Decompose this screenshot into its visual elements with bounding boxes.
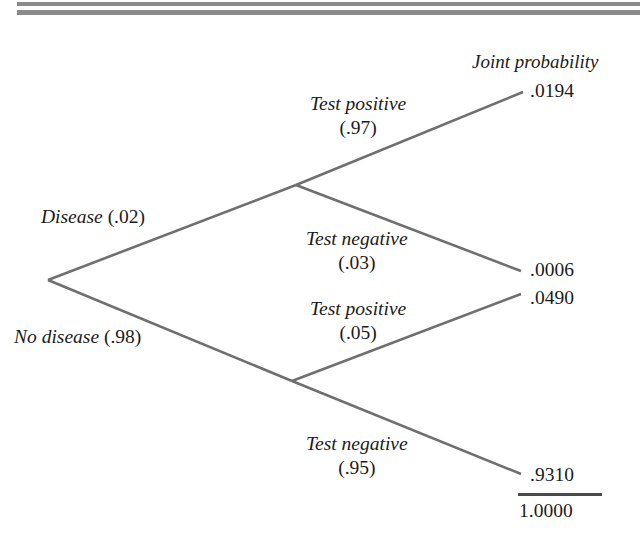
joint-probability-value-2: .0006 — [530, 258, 574, 282]
branch-label-test-positive-given-disease-text: Test positive — [310, 92, 406, 116]
branch-label-test-positive-given-no-disease-text: Test positive — [310, 297, 406, 321]
sum-rule — [518, 493, 602, 496]
branch-label-disease-text: Disease — [41, 206, 103, 227]
branch-label-test-negative-given-no-disease-text: Test negative — [306, 432, 408, 456]
branch-label-test-negative-given-disease-probability: (.03) — [306, 251, 408, 275]
branch-label-test-negative-given-no-disease: Test negative (.95) — [306, 432, 408, 480]
joint-probability-value-1: .0194 — [530, 79, 574, 103]
top-rule-lower — [17, 10, 640, 15]
joint-probability-value-4: .9310 — [530, 463, 574, 487]
branch-label-disease-probability: (.02) — [108, 206, 145, 227]
joint-probability-value-3: .0490 — [530, 286, 574, 310]
branch-label-no-disease-probability: (.98) — [104, 326, 141, 347]
probability-tree-figure: Joint probability Disease (.02) No disea… — [0, 0, 640, 547]
edge-root-to-disease — [48, 185, 296, 280]
branch-label-no-disease-text: No disease — [14, 326, 99, 347]
joint-probability-header: Joint probability — [472, 50, 598, 73]
top-rule-upper — [17, 2, 640, 6]
branch-label-test-negative-given-disease-text: Test negative — [306, 227, 408, 251]
branch-label-disease: Disease (.02) — [41, 205, 145, 229]
branch-label-test-positive-given-disease: Test positive (.97) — [310, 92, 406, 140]
branch-label-no-disease: No disease (.98) — [14, 325, 141, 349]
branch-label-test-negative-given-no-disease-probability: (.95) — [306, 456, 408, 480]
branch-label-test-positive-given-no-disease-probability: (.05) — [310, 321, 406, 345]
branch-label-test-negative-given-disease: Test negative (.03) — [306, 227, 408, 275]
branch-label-test-positive-given-disease-probability: (.97) — [310, 116, 406, 140]
branch-label-test-positive-given-no-disease: Test positive (.05) — [310, 297, 406, 345]
joint-probability-total: 1.0000 — [519, 500, 573, 522]
